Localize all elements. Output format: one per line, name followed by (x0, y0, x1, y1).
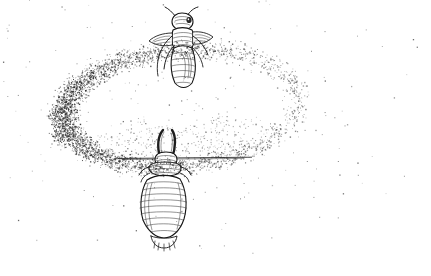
adult-abdomen (171, 46, 195, 88)
insect-illustration-figure (0, 0, 431, 276)
illustration-canvas (0, 0, 431, 276)
adult-eye (186, 17, 191, 23)
figure-background (0, 0, 431, 276)
